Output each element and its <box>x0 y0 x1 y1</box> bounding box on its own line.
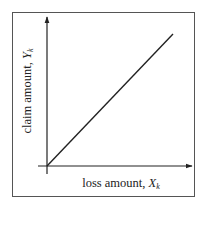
claim-equals-loss-line <box>47 34 173 166</box>
x-axis-label-variable: X <box>149 176 157 190</box>
y-axis-label-variable: Y <box>20 52 34 59</box>
x-axis-label: loss amount, Xk <box>82 176 160 191</box>
x-axis-label-subscript: k <box>156 182 160 191</box>
y-axis-label-text: claim amount, <box>20 59 34 134</box>
y-axis-label: claim amount, Yk <box>20 48 35 133</box>
x-axis-label-text: loss amount, <box>82 176 148 190</box>
y-axis-label-subscript: k <box>26 48 35 52</box>
